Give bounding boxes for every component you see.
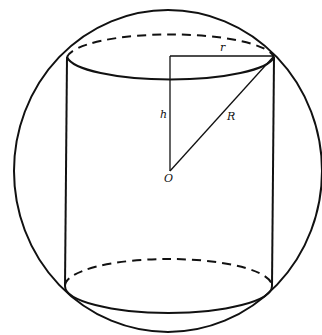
cylinder-bottom-back-arc	[65, 259, 272, 286]
label-h: h	[160, 108, 167, 121]
sphere-cylinder-diagram: r h R O	[0, 0, 322, 335]
sphere-radius-segment	[170, 56, 274, 171]
label-r: r	[220, 41, 226, 54]
label-O: O	[164, 172, 173, 185]
label-R: R	[226, 110, 235, 123]
sphere-outline	[14, 10, 322, 332]
cylinder-right-side	[272, 57, 274, 286]
cylinder-left-side	[65, 57, 67, 286]
cylinder-top-back-arc	[67, 34, 274, 57]
cylinder-bottom-front-arc	[65, 286, 272, 313]
